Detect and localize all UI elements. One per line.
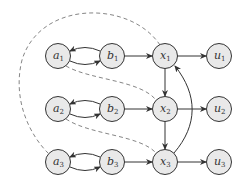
- directed-graph: a1b1x1u1a2b2x2u2a3b3x3u3: [0, 0, 249, 188]
- node-a1: a1: [46, 44, 71, 69]
- dashed-edge-x1-a3: [19, 13, 160, 153]
- dashed-edge-a1-x2: [66, 66, 156, 100]
- node-a2: a2: [46, 97, 71, 122]
- node-b3: b3: [100, 150, 125, 175]
- node-u2: u2: [207, 97, 232, 122]
- edge-a1-b1: [70, 61, 100, 65]
- edge-b2-a2: [70, 101, 100, 105]
- node-x3: x3: [153, 150, 178, 175]
- node-b1: b1: [100, 44, 125, 69]
- node-u3: u3: [207, 150, 232, 175]
- node-a3: a3: [46, 150, 71, 175]
- node-x2: x2: [153, 97, 178, 122]
- dashed-edge-a2-x3: [66, 119, 156, 153]
- node-u1: u1: [207, 44, 232, 69]
- edge-a2-b2: [70, 114, 100, 118]
- edge-b3-a3: [70, 154, 100, 158]
- edge-a3-b3: [70, 167, 100, 171]
- node-x1: x1: [153, 44, 178, 69]
- edge-b1-a1: [70, 48, 100, 52]
- node-b2: b2: [100, 97, 125, 122]
